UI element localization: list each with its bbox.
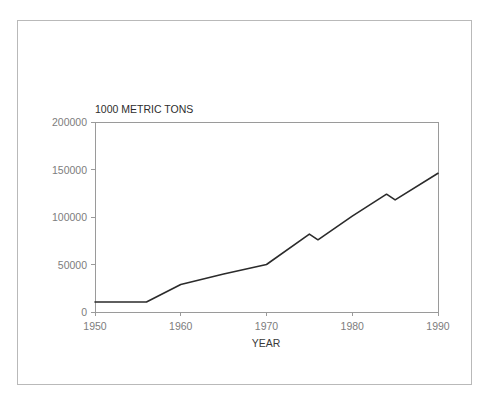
data-series-group bbox=[95, 173, 438, 302]
x-tick-label: 1960 bbox=[169, 320, 193, 332]
x-axis-title: YEAR bbox=[252, 337, 281, 349]
line-chart: 1000 METRIC TONS 05000010000015000020000… bbox=[18, 21, 473, 386]
axes-box bbox=[95, 122, 438, 312]
y-tick-label: 200000 bbox=[52, 116, 87, 128]
plot-title-group: 1000 METRIC TONS bbox=[95, 103, 193, 115]
figure-frame: 1000 METRIC TONS 05000010000015000020000… bbox=[17, 20, 472, 385]
x-axis-title-group: YEAR bbox=[252, 337, 281, 349]
plot-title: 1000 METRIC TONS bbox=[95, 103, 193, 115]
x-tick-label: 1950 bbox=[83, 320, 107, 332]
x-tick-label: 1990 bbox=[426, 320, 450, 332]
data-line-production bbox=[95, 173, 438, 302]
y-tick-label: 50000 bbox=[58, 259, 87, 271]
x-axis-ticks: 19501960197019801990 bbox=[83, 312, 450, 332]
x-tick-label: 1970 bbox=[255, 320, 279, 332]
y-tick-label: 100000 bbox=[52, 211, 87, 223]
y-tick-label: 150000 bbox=[52, 164, 87, 176]
y-axis-ticks: 050000100000150000200000 bbox=[52, 116, 95, 318]
x-tick-label: 1980 bbox=[341, 320, 365, 332]
y-tick-label: 0 bbox=[81, 306, 87, 318]
